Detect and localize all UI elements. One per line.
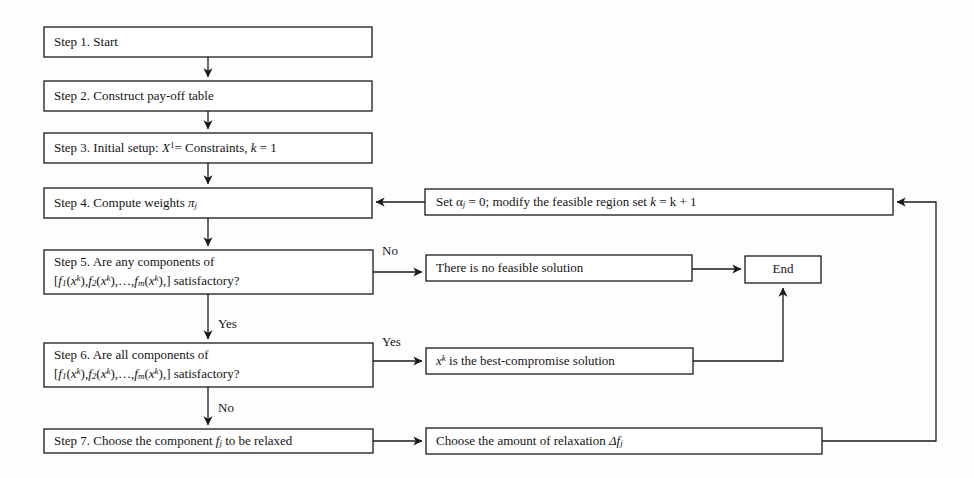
node-step6-line2: [f1(xk),f2(xk),…,fm(xk),] satisfactory? bbox=[54, 366, 240, 381]
flowchart-canvas: Step 1. Start Step 2. Construct pay-off … bbox=[0, 0, 974, 478]
node-step4-label: Step 4. Compute weights πj bbox=[54, 195, 197, 210]
node-step3-label: Step 3. Initial setup: X1= Constraints, … bbox=[54, 140, 277, 155]
edge-label-step5-no: No bbox=[382, 243, 398, 258]
node-end-label: End bbox=[773, 261, 794, 276]
node-step5-line1: Step 5. Are any components of bbox=[54, 254, 215, 269]
node-no-feasible-solution-label: There is no feasible solution bbox=[436, 260, 584, 275]
node-best-compromise-label: xk is the best-compromise solution bbox=[435, 353, 615, 368]
edge-label-step5-yes: Yes bbox=[218, 316, 237, 331]
node-relaxation-amount-label: Choose the amount of relaxation Δfj bbox=[436, 433, 623, 448]
edge-label-step6-no: No bbox=[218, 400, 234, 415]
edge-bestcompromise-end bbox=[693, 288, 783, 361]
node-step7-label: Step 7. Choose the component fj to be re… bbox=[54, 433, 293, 448]
node-step2-label: Step 2. Construct pay-off table bbox=[54, 88, 214, 103]
node-step1-label: Step 1. Start bbox=[54, 34, 118, 49]
edge-label-step6-yes: Yes bbox=[382, 334, 401, 349]
node-step5-line2: [f1(xk),f2(xk),…,fm(xk),] satisfactory? bbox=[54, 273, 240, 288]
edge-relaxation-modify bbox=[822, 202, 936, 441]
node-step6-line1: Step 6. Are all components of bbox=[54, 347, 209, 362]
node-modify-region-label: Set αj = 0; modify the feasible region s… bbox=[436, 194, 697, 209]
flowchart-diagram: Step 1. Start Step 2. Construct pay-off … bbox=[0, 0, 974, 478]
